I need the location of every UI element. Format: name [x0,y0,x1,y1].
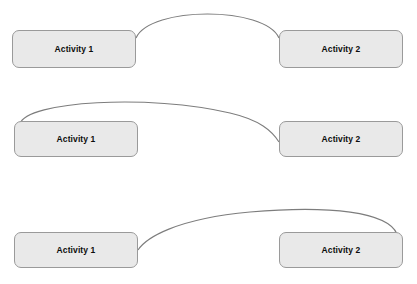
arc-row-1 [136,14,279,38]
activity-box-row3-target[interactable]: Activity 2 [279,232,403,268]
activity-box-label: Activity 1 [57,135,96,144]
activity-box-label: Activity 1 [55,45,94,54]
activity-box-row3-source[interactable]: Activity 1 [14,232,138,268]
activity-box-row2-target[interactable]: Activity 2 [279,121,403,157]
activity-box-label: Activity 1 [57,246,96,255]
activity-box-row2-source[interactable]: Activity 1 [14,121,138,157]
activity-box-label: Activity 2 [322,246,361,255]
activity-box-label: Activity 2 [322,45,361,54]
activity-box-label: Activity 2 [322,135,361,144]
activity-box-row1-target[interactable]: Activity 2 [279,30,403,68]
diagram-canvas: Activity 1 Activity 2 Activity 1 Activit… [0,0,417,284]
activity-box-row1-source[interactable]: Activity 1 [12,30,136,68]
